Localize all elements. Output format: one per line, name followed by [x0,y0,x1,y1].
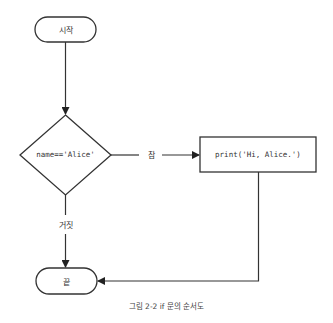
figure-caption: 그림 2-2 if 문의 순서도 [0,300,333,311]
edge-action-to-end [98,172,259,281]
condition-label: name=='Alice' [20,150,111,159]
true-label: 참 [140,149,162,160]
false-label: 거짓 [50,219,81,230]
end-label: 끝 [36,276,97,287]
action-label: print('Hi, Alice.') [200,150,316,159]
flowchart-canvas [0,0,333,323]
start-label: 시작 [35,24,96,35]
